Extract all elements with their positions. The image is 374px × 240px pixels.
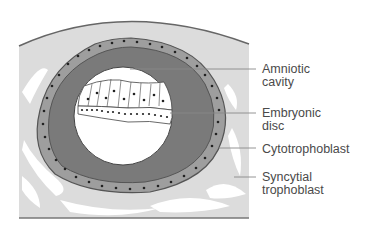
label-syncytial-trophoblast: Syncytial trophoblast (262, 171, 324, 197)
label-embryonic-disc: Embryonic disc (262, 107, 321, 133)
label-amniotic-cavity: Amniotic cavity (262, 63, 310, 89)
label-line: cavity (262, 76, 310, 89)
label-cytotrophoblast: Cytotrophoblast (262, 143, 350, 156)
label-line: disc (262, 120, 321, 133)
label-line: Cytotrophoblast (262, 143, 350, 156)
label-line: trophoblast (262, 184, 324, 197)
